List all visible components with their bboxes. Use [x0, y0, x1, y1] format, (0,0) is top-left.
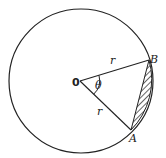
circle-segment-diagram: 0 B A r r θ — [0, 0, 166, 158]
label-b: B — [149, 53, 158, 66]
radius-oa — [80, 81, 131, 130]
label-radius-lower: r — [97, 105, 103, 118]
label-angle: θ — [95, 79, 102, 92]
label-center: 0 — [72, 76, 80, 89]
label-radius-upper: r — [110, 54, 116, 67]
label-a: A — [128, 132, 137, 145]
